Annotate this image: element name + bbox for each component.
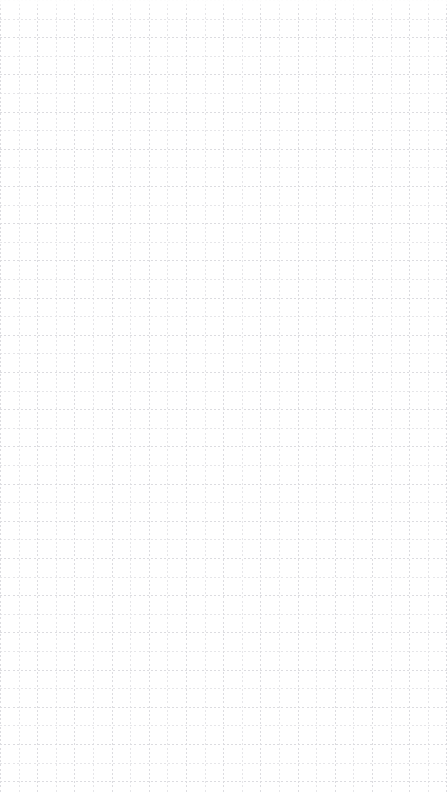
canvas-content-layer[interactable]	[0, 0, 448, 793]
app-root	[0, 0, 448, 793]
grid-canvas-surface[interactable]	[0, 0, 448, 793]
